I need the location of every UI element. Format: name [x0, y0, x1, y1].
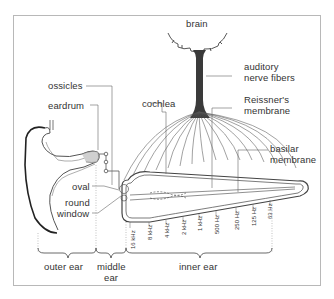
frequency-labels: 16 kHz 8 kHz 4 kHz 2 kHz 1 kHz 500 Hz 25… — [130, 203, 273, 249]
label-basilar-line2: membrane — [270, 154, 316, 165]
label-inner-ear: inner ear — [179, 261, 217, 272]
label-outer-ear: outer ear — [44, 261, 83, 272]
svg-text:500 Hz: 500 Hz — [214, 215, 220, 234]
svg-text:8 kHz: 8 kHz — [147, 225, 153, 240]
label-ossicles: ossicles — [48, 80, 83, 91]
cochlea-icon — [122, 172, 308, 222]
svg-text:1 kHz: 1 kHz — [197, 216, 203, 231]
label-cochlea: cochlea — [142, 98, 175, 109]
svg-text:2 kHz: 2 kHz — [181, 220, 187, 235]
svg-text:250 Hz: 250 Hz — [234, 211, 240, 230]
label-basilar-line1: basilar — [270, 143, 299, 154]
label-round-window-line1: round — [65, 197, 90, 208]
section-braces — [38, 248, 272, 258]
label-brain: brain — [186, 18, 208, 29]
ossicles-icon — [99, 152, 119, 189]
auditory-nerve-icon — [190, 50, 210, 118]
svg-text:16 kHz: 16 kHz — [130, 230, 136, 249]
svg-text:125 Hz: 125 Hz — [251, 207, 257, 226]
label-middle-ear-line1: middle — [97, 261, 126, 272]
label-middle-ear-line2: ear — [104, 272, 118, 283]
label-auditory-nerve-line1: auditory — [244, 61, 279, 72]
label-eardrum: eardrum — [48, 100, 84, 111]
label-reissners-line2: membrane — [244, 105, 290, 116]
label-round-window-line2: window — [57, 208, 89, 219]
windows-icon — [120, 185, 129, 202]
label-reissners-line1: Reissner's — [244, 94, 289, 105]
label-auditory-nerve-line2: nerve fibers — [244, 72, 295, 83]
label-oval: oval — [72, 181, 90, 192]
svg-text:4 kHz: 4 kHz — [164, 223, 170, 238]
